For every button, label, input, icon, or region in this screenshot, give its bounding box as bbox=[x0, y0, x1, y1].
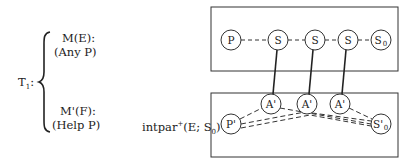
node-A2-label: A' bbox=[301, 98, 312, 110]
node-S2-label: S bbox=[311, 34, 318, 46]
node-S0-sub: 0 bbox=[383, 40, 387, 48]
node-P-label: P bbox=[227, 34, 234, 46]
diagram-canvas: P S S S S 0 P' A' A' A' S' 0 bbox=[0, 0, 415, 164]
node-S0p-sub: 0 bbox=[384, 124, 388, 132]
node-S1-label: S bbox=[274, 34, 281, 46]
node-A1-label: A' bbox=[265, 98, 276, 110]
node-S0-label: S bbox=[374, 34, 381, 46]
node-S0p-label: S' bbox=[373, 118, 383, 130]
mapping-lines bbox=[273, 50, 346, 94]
curly-brace-icon bbox=[39, 32, 50, 132]
node-A3-label: A' bbox=[334, 98, 345, 110]
node-Pp-label: P' bbox=[226, 118, 236, 130]
node-S3-label: S bbox=[344, 34, 351, 46]
